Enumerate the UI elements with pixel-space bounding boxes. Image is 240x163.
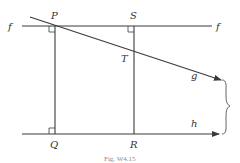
right-angle-marker-p: [49, 26, 55, 32]
figure-caption: Fig. W4.15: [104, 155, 136, 163]
geometry-diagram: f f g h P S T Q R Fig. W4.15: [0, 0, 240, 163]
label-g: g: [191, 70, 197, 81]
label-f-right: f: [215, 21, 222, 32]
label-point-p: P: [50, 10, 58, 21]
right-angle-marker-s: [128, 26, 134, 32]
label-point-t: T: [121, 53, 129, 64]
label-point-s: S: [130, 10, 137, 21]
label-point-r: R: [129, 139, 138, 150]
label-point-q: Q: [50, 139, 58, 150]
label-h: h: [191, 118, 197, 129]
right-angle-marker-q: [49, 128, 55, 134]
curly-brace: [222, 80, 230, 134]
label-f-left: f: [7, 21, 14, 32]
